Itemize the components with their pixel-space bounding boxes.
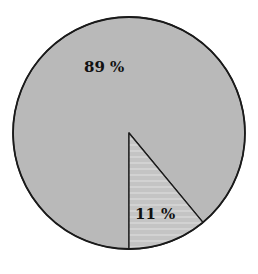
slice-label-small: 11 % (135, 205, 175, 223)
pie-slices (13, 17, 245, 249)
slice-label-large: 89 % (84, 58, 124, 76)
pie-chart: 89 % 11 % (0, 0, 258, 274)
